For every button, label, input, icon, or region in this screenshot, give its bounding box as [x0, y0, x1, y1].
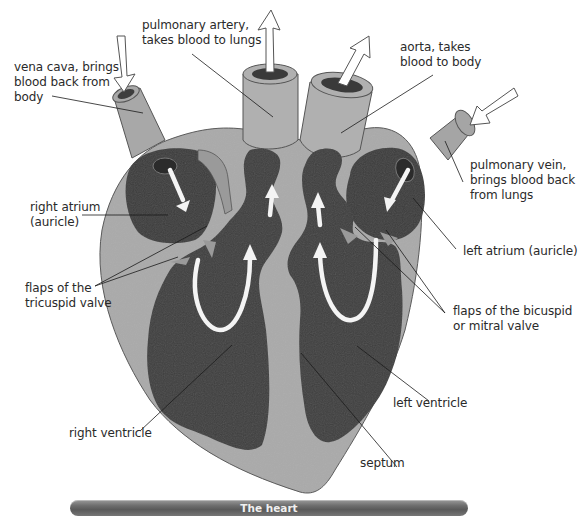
label-right-ventricle: right ventricle: [69, 426, 152, 441]
label-aorta: aorta, takes blood to body: [400, 40, 481, 70]
pulmonary-vein-inflow-arrow-icon: [470, 88, 518, 125]
label-vena-cava: vena cava, brings blood back from body: [14, 60, 119, 105]
label-bicuspid-flaps: flaps of the bicuspid or mitral valve: [453, 304, 572, 334]
diagram-caption: The heart: [70, 500, 468, 516]
pulmonary-artery-vessel: [243, 64, 298, 149]
label-tricuspid-flaps: flaps of the tricuspid valve: [25, 281, 112, 311]
caption-bar: The heart: [70, 500, 468, 516]
label-right-atrium: right atrium (auricle): [30, 200, 100, 230]
vena-cava-opening: [153, 158, 177, 174]
label-left-ventricle: left ventricle: [393, 396, 467, 411]
label-pulmonary-artery: pulmonary artery, takes blood to lungs: [142, 18, 261, 48]
left-atrium-chamber: [346, 148, 425, 240]
label-left-atrium: left atrium (auricle): [463, 244, 578, 259]
label-septum: septum: [360, 456, 405, 471]
pulmonary-vein-vessel: [430, 107, 479, 160]
label-pulmonary-vein: pulmonary vein, brings blood back from l…: [470, 158, 575, 203]
